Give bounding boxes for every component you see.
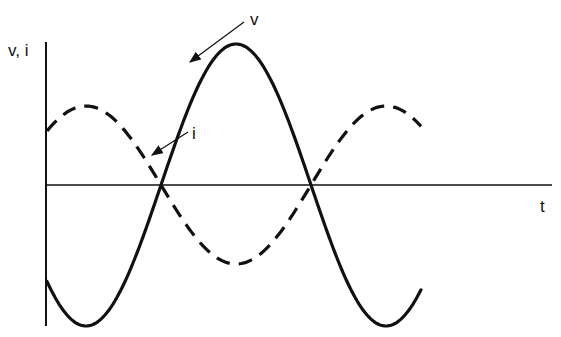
waveform-diagram: v, i t v i (0, 0, 561, 337)
v-curve-label: v (250, 10, 259, 29)
y-axis-label: v, i (8, 41, 28, 60)
x-axis-label: t (540, 197, 545, 216)
i-curve-label: i (192, 124, 196, 143)
i-label-arrow (152, 132, 188, 155)
